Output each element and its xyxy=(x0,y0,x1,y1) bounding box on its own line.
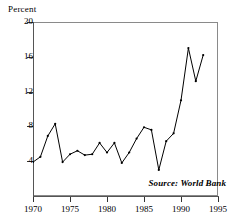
x-tick-1995 xyxy=(218,197,219,202)
chart-figure: Percent 20161284 19701975198019851990199… xyxy=(0,0,234,223)
y-tick-label-wrap: 8 xyxy=(0,121,33,130)
data-point-1981 xyxy=(113,142,115,144)
y-tick-label: 16 xyxy=(7,52,33,61)
data-point-1983 xyxy=(128,151,130,153)
data-point-1974 xyxy=(62,161,64,163)
data-point-1977 xyxy=(84,154,86,156)
x-tick-label: 1985 xyxy=(124,204,164,214)
data-point-1980 xyxy=(106,151,108,153)
x-tick-1980 xyxy=(107,197,108,202)
data-point-1979 xyxy=(99,142,101,144)
x-tick-label: 1975 xyxy=(50,204,90,214)
data-point-1971 xyxy=(39,156,41,158)
y-tick-label-wrap: 4 xyxy=(0,156,33,165)
data-point-1987 xyxy=(158,169,160,171)
data-point-1984 xyxy=(136,137,138,139)
data-point-1989 xyxy=(173,132,175,134)
x-tick-1990 xyxy=(181,197,182,202)
x-tick-1970 xyxy=(33,197,34,202)
data-point-1978 xyxy=(91,153,93,155)
data-point-1988 xyxy=(165,140,167,142)
data-point-1972 xyxy=(47,135,49,137)
data-point-1990 xyxy=(180,99,182,101)
x-tick-label: 1995 xyxy=(198,204,234,214)
x-tick-1985 xyxy=(144,197,145,202)
data-point-1992 xyxy=(195,80,197,82)
x-tick-label: 1990 xyxy=(161,204,201,214)
y-tick-label: 20 xyxy=(7,17,33,26)
data-point-1976 xyxy=(76,150,78,152)
source-annotation: Source: World Bank xyxy=(149,178,226,188)
data-point-1973 xyxy=(54,123,56,125)
x-tick-1975 xyxy=(70,197,71,202)
data-point-1986 xyxy=(150,129,152,131)
series-polyline xyxy=(33,48,203,170)
x-tick-label: 1980 xyxy=(87,204,127,214)
y-tick-label: 12 xyxy=(7,87,33,96)
data-point-1991 xyxy=(187,47,189,49)
x-tick-label: 1970 xyxy=(13,204,53,214)
data-line-series xyxy=(33,22,219,197)
data-point-1982 xyxy=(121,162,123,164)
data-point-1993 xyxy=(202,54,204,56)
data-point-1985 xyxy=(143,126,145,128)
data-point-1975 xyxy=(69,153,71,155)
y-tick-label-wrap: 12 xyxy=(0,87,33,96)
y-tick-label: 4 xyxy=(7,156,33,165)
y-tick-label-wrap: 16 xyxy=(0,52,33,61)
y-axis-title: Percent xyxy=(8,4,36,14)
y-tick-label-wrap: 20 xyxy=(0,17,33,26)
y-tick-label: 8 xyxy=(7,121,33,130)
